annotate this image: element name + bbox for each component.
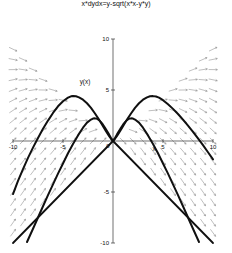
y-tick-label-5: 5 xyxy=(106,87,110,93)
direction-field-plot: -10-50510-10-5510y(x)x xyxy=(0,0,232,253)
figure-root: x*dydx=y-sqrt(x*x-y*y) -10-50510-10-5510… xyxy=(0,0,232,253)
y-tick-label--5: -5 xyxy=(104,189,110,195)
x-tick-label--5: -5 xyxy=(60,144,66,150)
x-tick-label--10: -10 xyxy=(9,144,18,150)
solution-curve-solution-inner-right xyxy=(113,118,199,242)
x-tick-label-10: 10 xyxy=(210,144,217,150)
solution-curve-asymptote-line-positive xyxy=(113,141,213,243)
y-tick-label--10: -10 xyxy=(100,240,109,246)
solution-curve-solution-inner-left xyxy=(27,118,113,242)
y-tick-label-10: 10 xyxy=(102,36,109,42)
x-tick-label-5: 5 xyxy=(161,144,165,150)
annotation-yx: y(x) xyxy=(80,78,91,86)
